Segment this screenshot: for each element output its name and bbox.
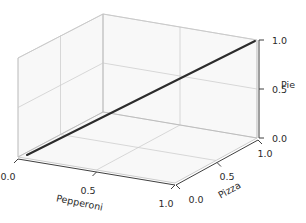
z-ticklabel-0: 1.0 (272, 35, 287, 46)
x-ticklabel-1: 0.5 (80, 185, 95, 196)
y-axis-label: Pizza (216, 179, 242, 200)
y-tick-0-5 (217, 163, 221, 167)
x-tick-0-0 (14, 159, 18, 163)
x-ticklabel-2: 1.0 (158, 198, 173, 209)
x-tick-0-5 (93, 172, 97, 176)
axes3d[interactable]: 0.0 0.5 1.0 1.0 0.5 0.0 1.0 0.5 0.0 Pepp… (0, 0, 306, 223)
y-ticklabel-1: 0.5 (219, 171, 234, 182)
z-ticklabel-2: 0.0 (272, 133, 287, 144)
figure-canvas: 0.0 0.5 1.0 1.0 0.5 0.0 1.0 0.5 0.0 Pepp… (0, 0, 306, 223)
z-axis-label: Pie (281, 79, 295, 90)
y-tick-0-0 (258, 140, 262, 144)
y-ticklabel-2: 0.0 (188, 194, 203, 205)
x-tick-1-0 (171, 185, 175, 189)
x-ticklabel-0: 0.0 (0, 171, 15, 182)
y-ticklabel-0: 1.0 (257, 148, 272, 159)
y-tick-1-0 (176, 185, 180, 189)
